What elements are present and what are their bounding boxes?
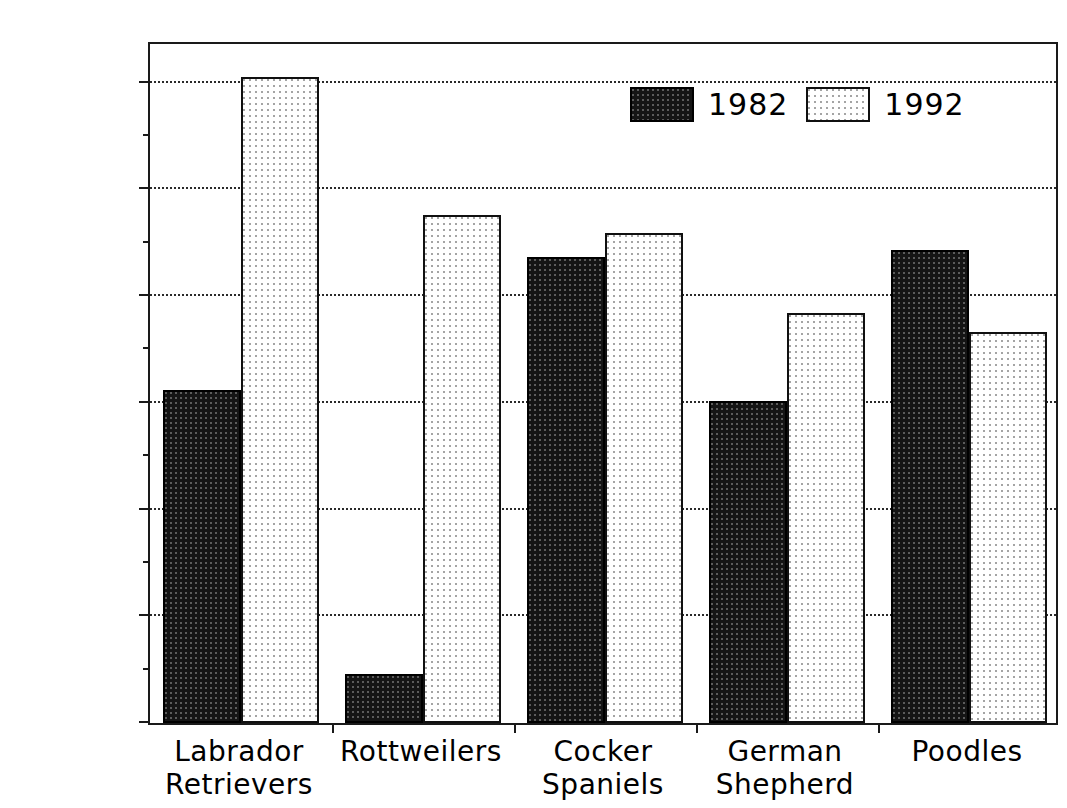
legend-entry-1982[interactable]: 1982: [630, 87, 788, 122]
y-tick-major: [139, 294, 150, 296]
bar-1992-cocker-spaniels[interactable]: [605, 233, 683, 723]
category-label-line2: Shepherd: [694, 768, 876, 801]
y-tick-minor: [143, 241, 150, 243]
y-tick-minor: [143, 668, 150, 670]
category-label-line1: Rottweilers: [330, 735, 512, 768]
category-label-line1: Poodles: [876, 735, 1058, 768]
bar-1992-rottweilers[interactable]: [423, 215, 501, 724]
y-tick-major: [139, 187, 150, 189]
y-tick-minor: [143, 454, 150, 456]
bar-1982-rottweilers[interactable]: [345, 674, 423, 723]
x-tick: [696, 723, 698, 733]
y-tick-minor: [143, 347, 150, 349]
legend-label: 1992: [884, 87, 964, 122]
x-axis-category-label: Poodles: [876, 735, 1058, 801]
category-label-line1: Cocker: [512, 735, 694, 768]
category-label-line2: [330, 768, 512, 801]
category-label-line2: Spaniels: [512, 768, 694, 801]
chart-title-clipped: [0, 0, 1067, 6]
dark-hatch-swatch: [630, 87, 694, 122]
x-tick: [514, 723, 516, 733]
bar-1982-labrador-retrievers[interactable]: [163, 390, 241, 723]
plot-area: [150, 44, 1056, 723]
x-tick: [332, 723, 334, 733]
x-axis-category-label: LabradorRetrievers: [148, 735, 330, 801]
bar-chart: 020,00040,00060,00080,000100,000120,000 …: [0, 0, 1067, 808]
bar-1992-poodles[interactable]: [969, 332, 1047, 723]
bar-1982-cocker-spaniels[interactable]: [527, 257, 605, 723]
light-dot-swatch: [806, 87, 870, 122]
x-axis-category-label: Rottweilers: [330, 735, 512, 801]
legend-label: 1982: [708, 87, 788, 122]
bar-1992-labrador-retrievers[interactable]: [241, 77, 319, 723]
x-axis-category-label: GermanShepherd: [694, 735, 876, 801]
category-label-line1: German: [694, 735, 876, 768]
category-label-line2: Retrievers: [148, 768, 330, 801]
y-tick-major: [139, 401, 150, 403]
bar-1982-poodles[interactable]: [891, 250, 969, 723]
x-tick: [878, 723, 880, 733]
y-tick-major: [139, 508, 150, 510]
y-tick-major: [139, 81, 150, 83]
chart-legend: 19821992: [630, 87, 965, 122]
y-tick-minor: [143, 561, 150, 563]
y-tick-major: [139, 721, 150, 723]
category-label-line1: Labrador: [148, 735, 330, 768]
legend-entry-1992[interactable]: 1992: [806, 87, 964, 122]
category-label-line2: [876, 768, 1058, 801]
bar-1982-german-shepherd[interactable]: [709, 401, 787, 723]
y-tick-minor: [143, 134, 150, 136]
x-axis-category-label: CockerSpaniels: [512, 735, 694, 801]
y-tick-major: [139, 614, 150, 616]
plot-frame: [148, 42, 1058, 725]
bar-1992-german-shepherd[interactable]: [787, 313, 865, 723]
